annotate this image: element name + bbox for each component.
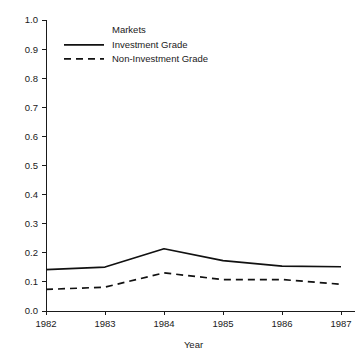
y-tick-label: 0.0 [25, 305, 38, 316]
x-tick-label: 1985 [212, 318, 233, 329]
y-tick-label: 0.4 [25, 189, 38, 200]
y-tick-label: 0.2 [25, 247, 38, 258]
x-tick-label: 1983 [94, 318, 115, 329]
x-tick-label: 1987 [330, 318, 351, 329]
y-tick-label: 0.3 [25, 218, 38, 229]
legend-entry-label: Non-Investment Grade [112, 53, 208, 64]
chart-container: 0.00.10.20.30.40.50.60.70.80.91.0 198219… [0, 0, 362, 362]
y-tick-label: 0.7 [25, 102, 38, 113]
y-tick-label: 0.1 [25, 276, 38, 287]
y-tick-label: 1.0 [25, 14, 38, 25]
line-chart: 0.00.10.20.30.40.50.60.70.80.91.0 198219… [0, 0, 362, 362]
x-tick-label: 1986 [271, 318, 292, 329]
x-axis-title: Year [184, 339, 203, 350]
y-tick-label: 0.5 [25, 160, 38, 171]
y-tick-label: 0.8 [25, 73, 38, 84]
legend-title: Markets [112, 24, 146, 35]
x-tick-label: 1984 [153, 318, 174, 329]
legend-entry-label: Investment Grade [112, 39, 188, 50]
y-tick-label: 0.6 [25, 131, 38, 142]
y-tick-label: 0.9 [25, 44, 38, 55]
x-tick-label: 1982 [35, 318, 56, 329]
